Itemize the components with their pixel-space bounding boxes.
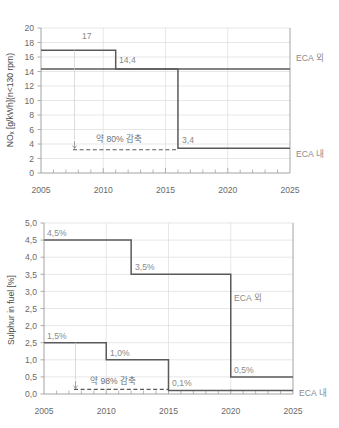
data-label-17: 17: [82, 31, 92, 41]
y-tick-label: 6: [29, 125, 34, 135]
x-tick-label: 2010: [94, 185, 113, 195]
y-axis-title: Sulphur in fuel [%]: [6, 275, 16, 345]
y-tick-label: 18: [24, 38, 34, 48]
figure-container: 20 18 16 14 12 10 8 6 4 2 0 2005 2010 20…: [0, 0, 339, 428]
data-label-45pct: 4,5%: [47, 228, 67, 238]
y-tick-label: 4: [29, 139, 34, 149]
chart-sulphur: 5,0 4,5 4,0 3,5 3,0 2,5 2,0 2,5 1,0 0,5 …: [0, 210, 339, 428]
y-tick-label: 14: [24, 67, 34, 77]
data-label-34: 3,4: [182, 135, 194, 145]
label-eca-inside: ECA 내: [299, 388, 327, 398]
y-tick-labels: 20 18 16 14 12 10 8 6 4 2 0: [24, 23, 34, 178]
x-tick-label: 2005: [34, 406, 53, 416]
y-tick-label: 4,5: [25, 235, 37, 245]
label-eca-outside: ECA 외: [234, 292, 262, 303]
data-label-10pct: 1,0%: [110, 348, 130, 358]
y-tick-label: 5,0: [25, 218, 37, 228]
y-tick-label: 1,0: [25, 355, 37, 365]
chart-nox: 20 18 16 14 12 10 8 6 4 2 0 2005 2010 20…: [0, 0, 339, 210]
reduction-arrow-icon: [74, 381, 78, 389]
y-tick-label: 8: [29, 110, 34, 120]
x-tick-label: 2015: [159, 406, 178, 416]
annotation-reduction: 약 98% 감축: [90, 375, 136, 386]
y-tick-label: 0: [29, 168, 34, 178]
x-tick-label: 2025: [280, 185, 299, 195]
label-eca-inside: ECA 내: [296, 149, 324, 159]
annotation-reduction: 약 80% 감축: [96, 133, 142, 144]
y-tick-labels: 5,0 4,5 4,0 3,5 3,0 2,5 2,0 2,5 1,0 0,5 …: [25, 218, 37, 399]
data-label-15pct: 1,5%: [47, 331, 67, 341]
x-tick-label: 2020: [221, 406, 240, 416]
y-tick-label: 10: [24, 96, 34, 106]
x-tick-labels: 2005 2010 2015 2020 2025: [31, 185, 299, 195]
chart-nox-svg: 20 18 16 14 12 10 8 6 4 2 0 2005 2010 20…: [0, 0, 339, 210]
x-tick-label: 2025: [283, 406, 302, 416]
x-minor-ticks: [53, 168, 277, 173]
data-label-35pct: 3,5%: [135, 262, 155, 272]
data-label-05pct: 0,5%: [234, 365, 254, 375]
y-tick-label: 3,5: [25, 270, 37, 280]
y-tick-label: 2,0: [25, 321, 37, 331]
y-ticks: [41, 223, 45, 394]
data-label-144: 14,4: [119, 55, 136, 65]
y-tick-label: 20: [24, 23, 34, 33]
reduction-arrow-icon: [73, 141, 77, 149]
y-tick-label: 4,0: [25, 252, 37, 262]
y-ticks: [38, 28, 42, 173]
label-eca-outside: ECA 외: [296, 52, 324, 63]
y-tick-label: 0,0: [25, 389, 37, 399]
x-tick-label: 2020: [218, 185, 237, 195]
y-tick-label: 16: [24, 52, 34, 62]
y-tick-label: 3,0: [25, 287, 37, 297]
x-tick-label: 2015: [156, 185, 175, 195]
y-tick-label: 0,5: [25, 372, 37, 382]
y-tick-label: 2,5: [25, 304, 37, 314]
y-tick-label: 12: [24, 81, 34, 91]
x-tick-labels: 2005 2010 2015 2020 2025: [34, 406, 302, 416]
chart-sulphur-svg: 5,0 4,5 4,0 3,5 3,0 2,5 2,0 2,5 1,0 0,5 …: [0, 210, 339, 428]
x-tick-label: 2005: [31, 185, 50, 195]
y-tick-label: 2: [29, 154, 34, 164]
y-axis-title: NOₓ [g/kWh](n<130 rpm): [5, 53, 15, 147]
y-tick-label: 2,5: [25, 338, 37, 348]
data-label-01pct: 0,1%: [172, 378, 192, 388]
x-tick-label: 2010: [97, 406, 116, 416]
